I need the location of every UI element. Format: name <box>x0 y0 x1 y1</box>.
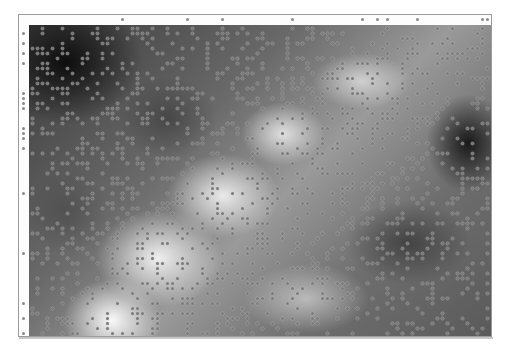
grid-dot <box>156 157 159 160</box>
grid-dot <box>486 122 489 125</box>
grid-dot <box>211 177 214 180</box>
grid-dot <box>486 252 489 255</box>
grid-dot <box>46 107 49 110</box>
grid-dot <box>461 292 464 295</box>
grid-dot <box>136 317 139 320</box>
grid-dot <box>181 297 184 300</box>
grid-dot <box>166 222 169 225</box>
grid-dot <box>441 277 444 280</box>
grid-dot <box>301 102 304 105</box>
grid-dot <box>361 182 364 185</box>
grid-dot <box>86 287 89 290</box>
grid-dot <box>311 107 314 110</box>
grid-dot <box>341 287 344 290</box>
left-edge-dot <box>22 52 25 55</box>
grid-dot <box>141 37 144 40</box>
grid-dot <box>201 272 204 275</box>
grid-dot <box>141 182 144 185</box>
grid-dot <box>61 92 64 95</box>
grid-dot <box>371 297 374 300</box>
grid-dot <box>61 162 64 165</box>
grid-dot <box>346 112 349 115</box>
grid-dot <box>391 117 394 120</box>
grid-dot <box>301 232 304 235</box>
grid-dot <box>376 127 379 130</box>
grid-dot <box>471 272 474 275</box>
grid-dot <box>46 62 49 65</box>
grid-dot <box>121 132 124 135</box>
grid-dot <box>356 92 359 95</box>
grid-dot <box>471 157 474 160</box>
grid-dot <box>276 197 279 200</box>
grid-dot <box>121 182 124 185</box>
grid-dot <box>321 277 324 280</box>
grid-dot <box>186 322 189 325</box>
grid-dot <box>276 117 279 120</box>
left-edge-dot <box>22 302 25 305</box>
grid-dot <box>206 52 209 55</box>
grid-dot <box>486 317 489 320</box>
grid-dot <box>246 322 249 325</box>
grid-dot <box>416 122 419 125</box>
grid-dot <box>356 127 359 130</box>
grid-dot <box>306 212 309 215</box>
grid-dot <box>196 92 199 95</box>
grid-dot <box>211 182 214 185</box>
grid-dot <box>351 47 354 50</box>
grid-dot <box>366 62 369 65</box>
grid-dot <box>246 277 249 280</box>
grid-dot <box>106 202 109 205</box>
grid-dot <box>281 177 284 180</box>
grid-dot <box>396 232 399 235</box>
grid-dot <box>106 112 109 115</box>
grid-dot <box>111 182 114 185</box>
grid-dot <box>461 277 464 280</box>
grid-dot <box>416 117 419 120</box>
grid-dot <box>371 132 374 135</box>
grid-dot <box>151 137 154 140</box>
grid-dot <box>201 127 204 130</box>
grid-dot <box>76 162 79 165</box>
grid-dot <box>46 52 49 55</box>
grid-dot <box>326 267 329 270</box>
grid-dot <box>211 152 214 155</box>
grid-dot <box>131 187 134 190</box>
grid-dot <box>181 302 184 305</box>
grid-dot <box>446 247 449 250</box>
grid-dot <box>356 62 359 65</box>
grid-dot <box>251 87 254 90</box>
grid-dot <box>181 47 184 50</box>
grid-dot <box>221 252 224 255</box>
grid-dot <box>286 302 289 305</box>
grid-dot <box>121 332 124 335</box>
grid-dot <box>321 97 324 100</box>
grid-dot <box>71 32 74 35</box>
grid-dot <box>186 312 189 315</box>
grid-dot <box>296 267 299 270</box>
grid-dot <box>461 222 464 225</box>
grid-dot <box>111 117 114 120</box>
grid-dot <box>311 27 314 30</box>
grid-dot <box>316 267 319 270</box>
grid-dot <box>81 207 84 210</box>
grid-dot <box>151 47 154 50</box>
grid-dot <box>106 222 109 225</box>
grid-dot <box>251 272 254 275</box>
grid-dot <box>321 102 324 105</box>
grid-dot <box>66 187 69 190</box>
grid-dot <box>341 192 344 195</box>
grid-dot <box>431 237 434 240</box>
grid-dot <box>36 287 39 290</box>
top-edge-dot <box>221 18 224 21</box>
grid-dot <box>36 92 39 95</box>
grid-dot <box>446 52 449 55</box>
grid-dot <box>51 72 54 75</box>
grid-dot <box>311 157 314 160</box>
grid-dot <box>171 157 174 160</box>
grid-dot <box>66 67 69 70</box>
grid-dot <box>71 237 74 240</box>
grid-dot <box>461 177 464 180</box>
grid-dot <box>251 137 254 140</box>
grid-dot <box>121 207 124 210</box>
grid-dot <box>221 27 224 30</box>
